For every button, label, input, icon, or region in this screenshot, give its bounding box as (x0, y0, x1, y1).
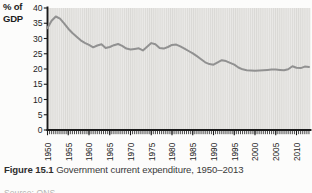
x-tick-label: 1985 (189, 142, 198, 161)
x-tick-label: 2005 (272, 142, 281, 161)
y-tick-label: 0 (38, 125, 43, 135)
y-tick-label: 5 (38, 110, 43, 120)
y-tick-label: 25 (33, 49, 43, 59)
x-tick-label: 1970 (127, 142, 136, 161)
figure-caption-label: Figure 15.1 (4, 164, 54, 175)
x-tick-label: 1955 (65, 142, 74, 161)
figure-caption: Figure 15.1 Government current expenditu… (4, 164, 310, 175)
x-tick-label: 2010 (293, 142, 302, 161)
x-tick-label: 1990 (210, 142, 219, 161)
y-tick-label: 15 (33, 79, 43, 89)
figure-15-1: 0510152025303540195019551960196519701975… (0, 0, 312, 193)
y-axis-title-line2: GDP (3, 13, 33, 25)
x-tick-label: 1980 (168, 142, 177, 161)
x-tick-label: 1965 (106, 142, 115, 161)
y-axis-title-line1: % of (3, 1, 33, 13)
y-tick-label: 40 (33, 3, 43, 13)
x-tick-label: 1950 (44, 142, 53, 161)
source-note: Source: ONS (4, 188, 204, 193)
y-tick-label: 30 (33, 34, 43, 44)
y-tick-label: 35 (33, 18, 43, 28)
x-tick-label: 1995 (231, 142, 240, 161)
y-axis-title: % of GDP (3, 1, 33, 24)
x-tick-label: 2000 (251, 142, 260, 161)
x-tick-label: 1975 (148, 142, 157, 161)
y-tick-label: 10 (33, 95, 43, 105)
figure-caption-text: Government current expenditure, 1950–201… (54, 164, 244, 175)
x-tick-label: 1960 (85, 142, 94, 161)
y-tick-label: 20 (33, 64, 43, 74)
